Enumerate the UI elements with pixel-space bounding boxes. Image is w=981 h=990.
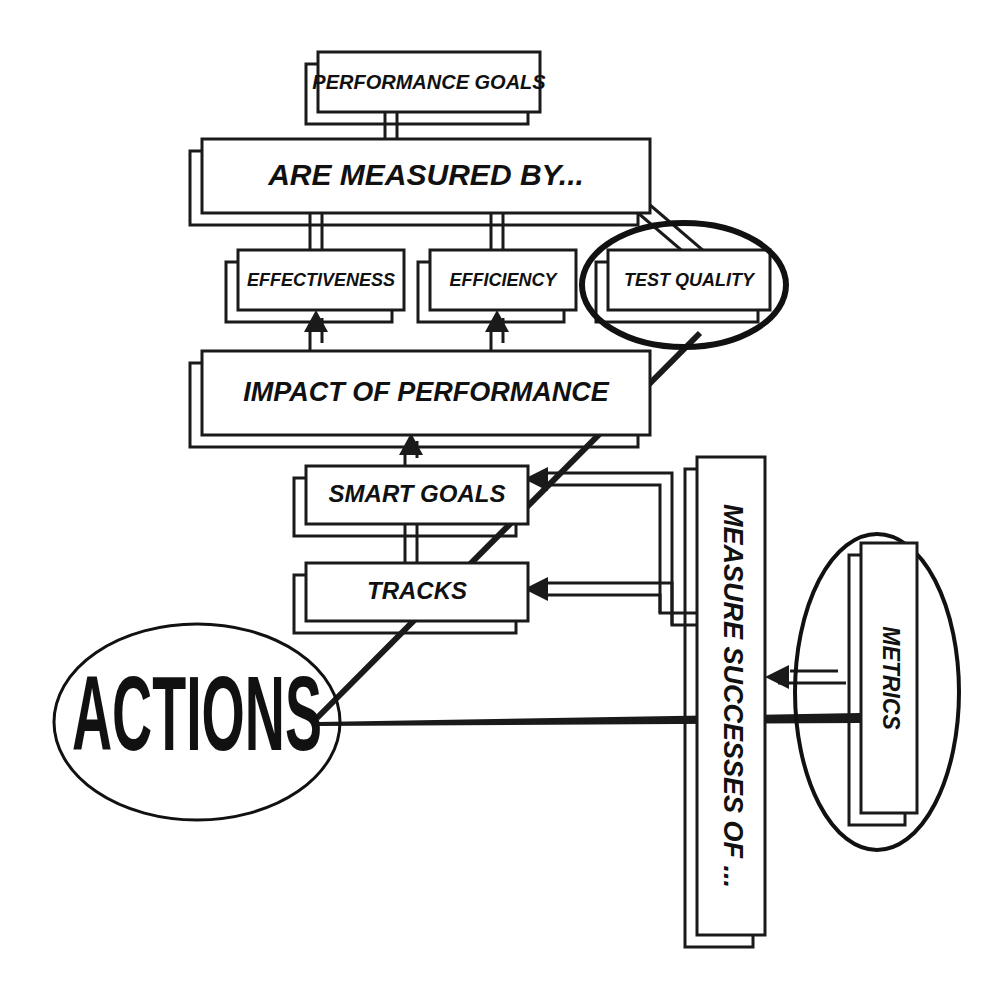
edge-impact-to-effectiveness: [304, 310, 328, 351]
performance-goals-label: PERFORMANCE GOALS: [312, 71, 546, 93]
edge-metrics-to-measure-successes: [765, 665, 846, 689]
actions-label: ACTIONS: [72, 655, 322, 773]
edge-actions-to-metrics: [318, 713, 860, 726]
diagram-svg: PERFORMANCE GOALS ARE MEASURED BY... EFF…: [0, 0, 981, 990]
are-measured-by-label: ARE MEASURED BY...: [267, 158, 584, 191]
test-quality-label: TEST QUALITY: [624, 270, 756, 290]
node-smart-goals[interactable]: SMART GOALS: [294, 466, 528, 536]
node-are-measured-by[interactable]: ARE MEASURED BY...: [190, 139, 650, 225]
node-impact-of-performance[interactable]: IMPACT OF PERFORMANCE: [190, 351, 650, 447]
node-metrics[interactable]: METRICS: [795, 534, 959, 850]
measure-successes-label: MEASURE SUCCESSES OF ...: [718, 504, 748, 888]
metrics-label: METRICS: [878, 626, 904, 730]
impact-of-performance-label: IMPACT OF PERFORMANCE: [243, 377, 609, 407]
smart-goals-label: SMART GOALS: [329, 480, 506, 507]
node-actions[interactable]: ACTIONS: [54, 624, 340, 820]
edge-impact-to-efficiency: [485, 310, 509, 351]
effectiveness-label: EFFECTIVENESS: [247, 270, 395, 290]
node-measure-successes-of[interactable]: MEASURE SUCCESSES OF ...: [685, 457, 765, 947]
efficiency-label: EFFICIENCY: [449, 270, 558, 290]
node-effectiveness[interactable]: EFFECTIVENESS: [226, 250, 404, 322]
edge-smart-goals-to-impact: [399, 433, 423, 466]
node-tracks[interactable]: TRACKS: [294, 563, 528, 633]
node-performance-goals[interactable]: PERFORMANCE GOALS: [306, 52, 546, 124]
edge-measure-successes-to-goals-and-tracks: [524, 467, 697, 625]
diagram-canvas: PERFORMANCE GOALS ARE MEASURED BY... EFF…: [0, 0, 981, 990]
node-efficiency[interactable]: EFFICIENCY: [418, 250, 576, 322]
node-test-quality[interactable]: TEST QUALITY: [582, 223, 786, 347]
tracks-label: TRACKS: [367, 577, 467, 604]
